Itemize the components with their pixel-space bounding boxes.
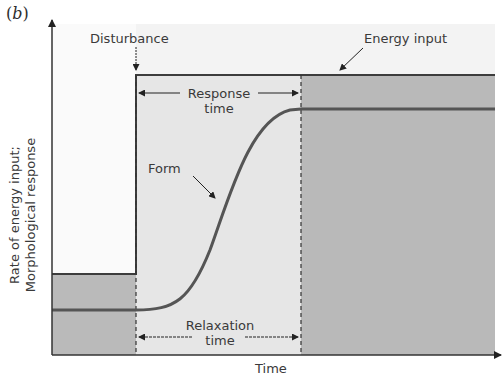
y-axis-label-line2: Morphological response: [23, 138, 38, 292]
energy-input-label: Energy input: [364, 31, 447, 46]
panel-label: (b): [6, 4, 29, 23]
response-time-label: Response time: [180, 86, 258, 116]
relaxation-time-line1: Relaxation: [186, 318, 255, 333]
response-time-line2: time: [204, 101, 233, 116]
energy-fill-high: [301, 75, 495, 355]
form-label: Form: [148, 161, 181, 176]
x-axis-label: Time: [255, 361, 287, 376]
response-time-line1: Response: [188, 86, 250, 101]
relaxation-time-label: Relaxation time: [178, 318, 262, 348]
disturbance-label: Disturbance: [90, 31, 169, 46]
panel-letter: b: [12, 4, 22, 23]
y-axis-label: Rate of energy input; Morphological resp…: [4, 100, 42, 330]
energy-fill-low: [52, 274, 136, 355]
y-axis-label-line1: Rate of energy input;: [7, 146, 22, 284]
plot-area-white: [52, 24, 136, 274]
relaxation-time-line2: time: [205, 333, 234, 348]
figure: (b) Rate of energy input; Morphological …: [0, 0, 503, 378]
